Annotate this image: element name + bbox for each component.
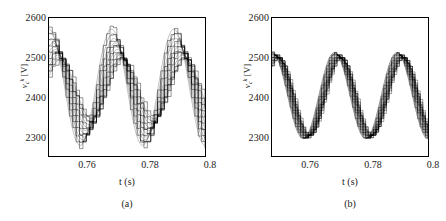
- plot-area-a: [48, 17, 206, 157]
- y-axis-unit: [V]: [19, 64, 29, 79]
- x-tick-label: 0.76: [290, 160, 330, 170]
- x-tick-label: 0.78: [353, 160, 393, 170]
- y-axis-superscript: k: [241, 78, 248, 81]
- waveform-svg-b: [272, 18, 428, 156]
- panel-subcaption-a: (a): [48, 198, 206, 209]
- y-tick-label: 2600: [225, 13, 269, 23]
- chart-panel-a: 2600 2500 2400 2300 vck [V] 0.76 0.78 0.…: [0, 0, 223, 221]
- y-tick-label: 2300: [225, 133, 269, 143]
- y-tick-label: 2600: [2, 13, 46, 23]
- x-tick-label: 0.76: [67, 160, 107, 170]
- panel-subcaption-b: (b): [271, 198, 429, 209]
- y-axis-subscript: c: [23, 81, 30, 84]
- y-axis-title-b: vck [V]: [241, 46, 253, 106]
- chart-panel-b: 2600 2500 2400 2300 vck [V] 0.76 0.78 0.…: [223, 0, 446, 221]
- y-axis-subscript: c: [246, 81, 253, 84]
- y-axis-unit: [V]: [242, 64, 252, 79]
- figure-container: 2600 2500 2400 2300 vck [V] 0.76 0.78 0.…: [0, 0, 446, 221]
- plot-area-b: [271, 17, 429, 157]
- y-axis-ticks-a: 2600 2500 2400 2300: [0, 0, 46, 221]
- x-tick-label: 0.8: [413, 160, 446, 170]
- y-axis-title-a: vck [V]: [18, 46, 30, 106]
- waveform-envelope: [49, 43, 205, 137]
- y-axis-variable: v: [19, 84, 29, 88]
- y-axis-variable: v: [242, 84, 252, 88]
- x-tick-label: 0.78: [130, 160, 170, 170]
- waveform-svg-a: [49, 18, 205, 156]
- y-axis-superscript: k: [18, 78, 25, 81]
- x-axis-title-b: t (s): [271, 176, 429, 187]
- y-tick-label: 2300: [2, 133, 46, 143]
- x-axis-title-a: t (s): [48, 176, 206, 187]
- y-axis-ticks-b: 2600 2500 2400 2300: [223, 0, 269, 221]
